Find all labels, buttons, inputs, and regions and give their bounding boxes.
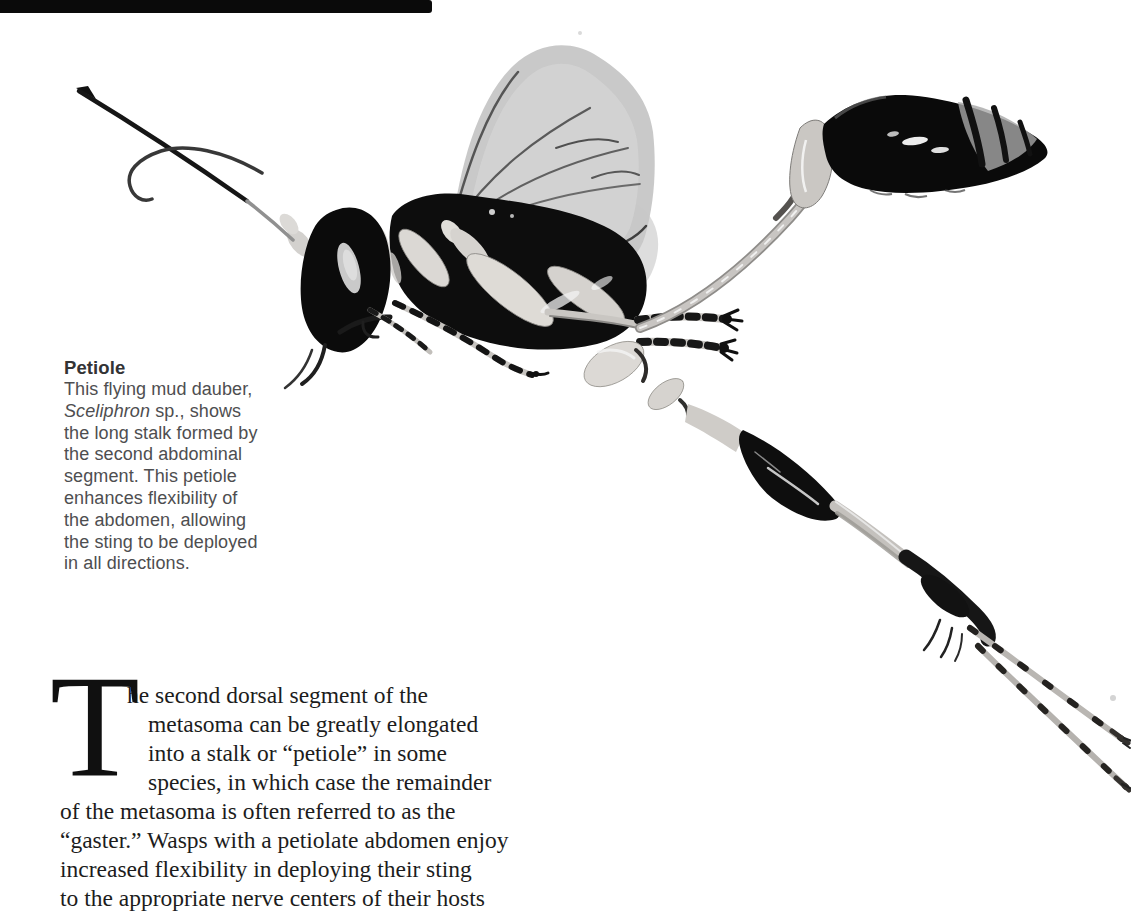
species-name-italic: Sceliphron	[64, 401, 150, 421]
book-page: Petiole This flying mud dauber, Sceliphr…	[0, 0, 1131, 912]
body-line: to the appropriate nerve centers of thei…	[60, 884, 560, 912]
caption-line: the second abdominal	[64, 444, 309, 466]
body-text: T he second dorsal segment of the metaso…	[60, 681, 560, 912]
body-line: increased flexibility in deploying their…	[60, 855, 560, 884]
caption-line: the long stalk formed by	[64, 423, 309, 445]
caption-title: Petiole	[64, 357, 309, 379]
wasp-gaster	[790, 95, 1048, 208]
drop-cap: T	[50, 653, 140, 800]
wasp-antennae	[76, 86, 293, 240]
caption-line: the abdomen, allowing	[64, 510, 309, 532]
caption-line: This flying mud dauber,	[64, 379, 309, 401]
wasp-petiole-stalk	[640, 191, 811, 328]
caption-line: the sting to be deployed	[64, 532, 309, 554]
caption-line-species: Sceliphron sp., shows	[64, 401, 309, 423]
caption-line: enhances flexibility of	[64, 488, 309, 510]
caption-line: in all directions.	[64, 553, 309, 575]
wasp-hind-legs	[576, 332, 1131, 790]
photo-caption: Petiole This flying mud dauber, Sceliphr…	[64, 357, 309, 575]
body-line: “gaster.” Wasps with a petiolate abdomen…	[60, 826, 560, 855]
caption-line: segment. This petiole	[64, 466, 309, 488]
